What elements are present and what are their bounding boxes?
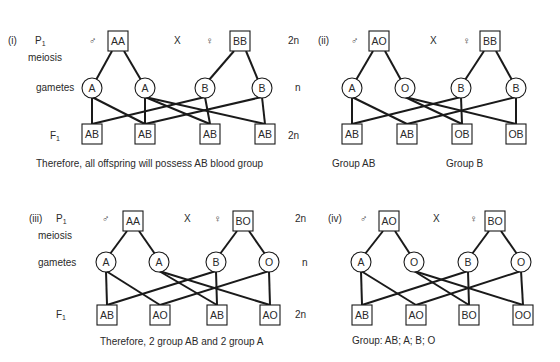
row-label-meiosis: meiosis: [28, 52, 62, 63]
parent-genotype: BB: [483, 35, 497, 47]
meiosis-line: [385, 51, 401, 80]
offspring-genotype-box: AB: [135, 124, 155, 144]
ploidy-label: n: [295, 82, 301, 93]
cross-symbol: X: [433, 213, 440, 224]
fertilization-line: [361, 271, 362, 305]
parent-genotype-box: BB: [480, 31, 500, 51]
offspring-genotype: AO: [152, 309, 167, 321]
connector-lines: [106, 231, 270, 305]
offspring-genotype: OO: [515, 309, 531, 321]
offspring-genotype-box: AB: [397, 124, 417, 144]
offspring-genotype: AO: [262, 309, 277, 321]
parent-genotype: BO: [487, 215, 502, 227]
row-label-gametes: gametes: [36, 82, 74, 93]
female-symbol-icon: ♀: [214, 213, 222, 224]
row-label-p1: P1: [56, 213, 67, 225]
row-label-f1: F1: [56, 309, 66, 321]
gamete-allele: A: [102, 256, 109, 268]
gamete-allele: B: [512, 82, 519, 94]
ploidy-label: 2n: [288, 130, 299, 141]
cross-number-label: (ii): [318, 35, 329, 46]
fertilization-line: [92, 97, 205, 124]
gamete-circle: B: [451, 78, 471, 98]
offspring-genotype-box: AB: [82, 124, 102, 144]
gamete-circle: A: [82, 78, 102, 98]
gamete-circle: B: [506, 78, 526, 98]
offspring-genotype-box: AO: [260, 305, 280, 325]
gamete-allele: B: [457, 82, 464, 94]
fertilization-line: [92, 97, 145, 124]
subscript: 1: [63, 218, 67, 225]
gamete-allele: A: [357, 256, 364, 268]
gamete-circle: A: [96, 252, 116, 272]
ploidy-label: 2n: [295, 309, 306, 320]
offspring-genotype: AB: [355, 309, 369, 321]
subscript: 1: [42, 40, 46, 47]
offspring-genotype-box: AO: [406, 305, 426, 325]
offspring-genotype-box: BO: [459, 305, 479, 325]
female-symbol-icon: ♀: [206, 35, 214, 46]
fertilization-line: [262, 97, 265, 124]
gamete-allele: B: [258, 82, 265, 94]
offspring-genotype: AB: [258, 128, 272, 140]
parent-genotype-box: AO: [379, 211, 399, 231]
conclusion-text: Therefore, all offspring will possess AB…: [36, 158, 264, 169]
offspring-genotype-box: AB: [352, 305, 372, 325]
gamete-allele: A: [88, 82, 95, 94]
meiosis-line: [220, 231, 237, 254]
parent-genotype: BO: [235, 215, 250, 227]
fertilization-line: [414, 271, 469, 305]
cross-symbol: X: [430, 35, 437, 46]
connector-lines: [92, 51, 265, 124]
conclusion-text: Therefore, 2 group AB and 2 group A: [100, 336, 264, 347]
offspring-genotype: AO: [408, 309, 423, 321]
cross-symbol: X: [184, 213, 191, 224]
cross-number-label: (iv): [328, 213, 342, 224]
gamete-allele: A: [141, 82, 148, 94]
offspring-genotype-box: AB: [342, 124, 362, 144]
meiosis-line: [465, 51, 484, 80]
gamete-circle: O: [395, 78, 415, 98]
fertilization-line: [106, 271, 160, 305]
parent-genotype-box: AO: [369, 31, 389, 51]
meiosis-line: [124, 51, 141, 80]
gamete-allele: B: [201, 82, 208, 94]
connector-lines: [361, 231, 523, 305]
offspring-genotype: AB: [210, 309, 224, 321]
gamete-circle: A: [342, 78, 362, 98]
meiosis-line: [96, 51, 112, 80]
fertilization-line: [269, 271, 270, 305]
meiosis-line: [110, 231, 127, 254]
meiosis-line: [496, 51, 512, 80]
fertilization-line: [106, 271, 107, 305]
gamete-allele: O: [265, 256, 273, 268]
fertilization-line: [352, 97, 407, 124]
conclusion-text: Group: AB; A; B; O: [352, 335, 436, 346]
ploidy-label: 2n: [288, 35, 299, 46]
subscript: 1: [62, 314, 66, 321]
male-symbol-icon: ♂: [102, 213, 110, 224]
cross-number-label: (i): [8, 35, 17, 46]
connector-lines: [352, 51, 516, 124]
row-label-f1: F1: [50, 130, 60, 142]
offspring-genotype: OB: [454, 128, 469, 140]
offspring-genotype: AB: [100, 309, 114, 321]
gamete-allele: B: [464, 256, 471, 268]
ploidy-label: 2n: [295, 213, 306, 224]
fertilization-line: [405, 97, 462, 124]
parent-genotype-box: AA: [123, 211, 143, 231]
meiosis-line: [365, 231, 383, 254]
parent-genotype: AA: [111, 35, 125, 47]
conclusion-text: Group AB: [332, 158, 376, 169]
meiosis-line: [246, 51, 258, 80]
parent-genotype-box: BB: [230, 31, 250, 51]
cross-panel-iv: (iv)♂X♀AOBOAOBOABAOBOOOGroup: AB; A; B; …: [328, 211, 533, 346]
meiosis-line: [395, 231, 410, 254]
offspring-genotype: AB: [138, 128, 152, 140]
meiosis-line: [139, 231, 155, 254]
meiosis-line: [501, 231, 517, 254]
meiosis-line: [356, 51, 373, 80]
parent-genotype: AO: [381, 215, 396, 227]
gamete-circle: O: [404, 252, 424, 272]
offspring-genotype-box: AB: [255, 124, 275, 144]
